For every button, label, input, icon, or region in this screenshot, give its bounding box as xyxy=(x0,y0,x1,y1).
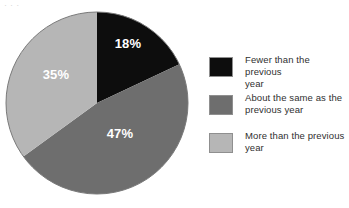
legend-label-line2: year xyxy=(245,142,264,153)
legend-label-line2: year xyxy=(245,78,264,89)
legend-label-line1: About the same as the xyxy=(245,92,342,103)
legend-swatch-black xyxy=(209,57,233,77)
pie-slices xyxy=(6,12,188,194)
legend-label-line1: Fewer than the previous xyxy=(245,54,310,77)
pie-label-more-than-previous-year: 35% xyxy=(43,67,70,82)
chart-legend: Fewer than the previous year About the s… xyxy=(209,56,345,170)
cropped-caption-remnant: · · · xyxy=(4,0,134,6)
pie-label-fewer-than-previous-year: 18% xyxy=(115,36,142,51)
legend-swatch-light-gray xyxy=(209,133,233,153)
pie-chart-svg: 18% 47% 35% xyxy=(4,10,192,198)
legend-label-fewer-than-previous-year: Fewer than the previous year xyxy=(245,54,345,90)
legend-item-more-than-previous-year[interactable]: More than the previous year xyxy=(209,132,345,168)
pie-chart: 18% 47% 35% xyxy=(4,10,192,198)
legend-item-about-the-same-as-previous-year[interactable]: About the same as the previous year xyxy=(209,94,345,130)
pie-chart-figure: · · · 18% 47% 35% Fewer than the previo xyxy=(0,0,349,208)
legend-label-more-than-previous-year: More than the previous year xyxy=(245,130,345,154)
legend-item-fewer-than-previous-year[interactable]: Fewer than the previous year xyxy=(209,56,345,92)
pie-label-about-the-same-as-previous-year: 47% xyxy=(107,126,134,141)
legend-label-line2: previous year xyxy=(245,104,303,115)
legend-label-about-the-same-as-previous-year: About the same as the previous year xyxy=(245,92,345,116)
legend-swatch-medium-gray xyxy=(209,95,233,115)
legend-label-line1: More than the previous xyxy=(245,130,344,141)
